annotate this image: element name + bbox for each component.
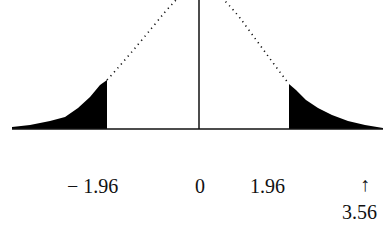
right-critical-label: 1.96 (250, 175, 285, 198)
left-rejection-region (12, 80, 107, 129)
curve-dotted-body (107, 0, 289, 84)
left-critical-label: − 1.96 (67, 175, 118, 198)
center-label: 0 (195, 175, 205, 198)
observed-value-label: 3.56 (342, 201, 377, 224)
up-arrow-icon: ↑ (360, 173, 370, 196)
normal-curve-plot (0, 0, 388, 229)
right-rejection-region (289, 84, 383, 129)
